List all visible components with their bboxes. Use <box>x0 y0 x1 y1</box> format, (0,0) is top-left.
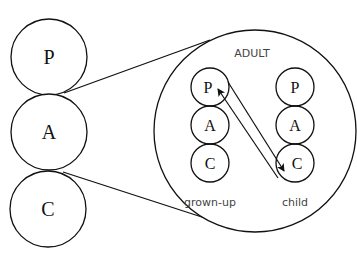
child-parent-label: P <box>291 79 300 96</box>
grownup-child-label: C <box>205 155 216 172</box>
grownup-caption: grown-up <box>184 196 236 209</box>
adult-title: ADULT <box>234 47 270 60</box>
grownup-adult-label: A <box>204 117 216 134</box>
parent-label: P <box>43 46 54 68</box>
child-child-label: C <box>292 155 303 172</box>
magnified-adult: ADULT P A C grown-up P A C child <box>154 30 356 232</box>
left-ego-stack: P A C <box>10 19 87 247</box>
ego-state-diagram: P A C ADULT P A C grown-up P A C child <box>0 0 357 254</box>
child-adult-label: A <box>289 117 301 134</box>
grownup-parent-label: P <box>204 79 213 96</box>
adult-label: A <box>42 121 57 143</box>
child-caption: child <box>282 196 308 209</box>
child-label: C <box>41 198 54 220</box>
